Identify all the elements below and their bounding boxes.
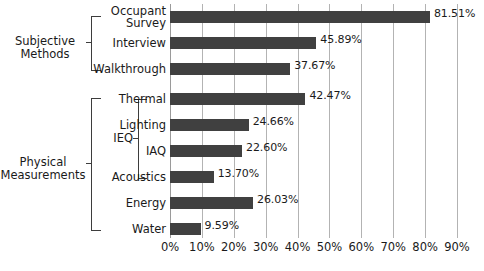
bar[interactable] — [170, 11, 430, 23]
category-label: Acoustics — [26, 171, 166, 183]
category-label: Interview — [26, 37, 166, 49]
bar-value-label: 26.03% — [257, 193, 298, 206]
plot-area: 81.51%45.89%37.67%42.47%24.66%22.60%13.7… — [170, 4, 457, 238]
tick-label: 70% — [380, 240, 406, 254]
bar-value-label: 24.66% — [253, 115, 294, 128]
bar-value-label: 45.89% — [320, 33, 361, 46]
bar[interactable] — [170, 145, 242, 157]
bar-value-label: 9.59% — [205, 219, 239, 232]
tick-label: 40% — [285, 240, 311, 254]
bar[interactable] — [170, 197, 253, 209]
tick-label: 30% — [253, 240, 279, 254]
bar-value-label: 42.47% — [309, 89, 350, 102]
category-label: Lighting — [26, 119, 166, 131]
bar-row: 45.89% — [170, 30, 457, 56]
bar[interactable] — [170, 63, 290, 75]
bar-row: 13.70% — [170, 164, 457, 190]
tick-label: 0% — [161, 240, 179, 254]
tick-label: 20% — [221, 240, 247, 254]
value-axis: 0%10%20%30%40%50%60%70%80%90% — [170, 240, 457, 260]
bar[interactable] — [170, 119, 249, 131]
category-label: Thermal — [26, 93, 166, 105]
bar-row: 24.66% — [170, 112, 457, 138]
category-label: Walkthrough — [26, 63, 166, 75]
tick-label: 80% — [412, 240, 438, 254]
bar[interactable] — [170, 37, 316, 49]
tick-label: 10% — [189, 240, 215, 254]
tick-label: 50% — [317, 240, 343, 254]
bar-value-label: 81.51% — [434, 7, 475, 20]
category-axis: Occupant SurveyInterviewWalkthroughTherm… — [22, 4, 166, 238]
bar-row: 42.47% — [170, 86, 457, 112]
bar-row: 37.67% — [170, 56, 457, 82]
category-label: Energy — [26, 197, 166, 209]
bar[interactable] — [170, 223, 201, 235]
bar-value-label: 13.70% — [218, 167, 259, 180]
tick-label: 60% — [349, 240, 375, 254]
category-label: Occupant Survey — [26, 5, 166, 29]
bar-chart: Subjective Methods Physical Measurements… — [0, 0, 484, 271]
bar-row: 22.60% — [170, 138, 457, 164]
category-label: IAQ — [26, 145, 166, 157]
bar-row: 9.59% — [170, 216, 457, 242]
bar-row: 81.51% — [170, 4, 457, 30]
bar-value-label: 22.60% — [246, 141, 287, 154]
bar[interactable] — [170, 171, 214, 183]
bar[interactable] — [170, 93, 305, 105]
category-label: Water — [26, 223, 166, 235]
tick-label: 90% — [444, 240, 470, 254]
bar-row: 26.03% — [170, 190, 457, 216]
bar-value-label: 37.67% — [294, 59, 335, 72]
gridline-90% — [457, 4, 458, 238]
